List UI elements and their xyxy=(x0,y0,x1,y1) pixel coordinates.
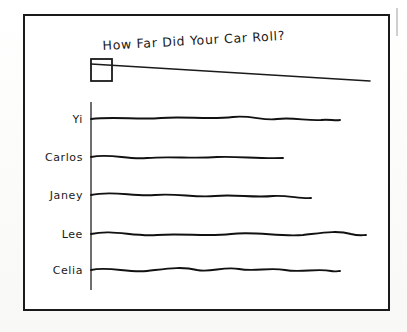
bar-carlos xyxy=(91,156,283,159)
category-label-yi: Yi xyxy=(25,113,83,126)
category-label-carlos: Carlos xyxy=(25,151,83,164)
bar-janey xyxy=(91,193,311,198)
category-label-lee: Lee xyxy=(25,228,83,241)
scan-edge-artifact xyxy=(396,8,398,36)
block-square xyxy=(91,59,112,81)
bar-yi xyxy=(91,117,340,121)
worksheet-page: How Far Did Your Car Roll? Yi Carlos Jan… xyxy=(0,0,407,332)
chart-frame: How Far Did Your Car Roll? Yi Carlos Jan… xyxy=(23,14,390,311)
bar-celia xyxy=(91,268,340,271)
ramp-line xyxy=(91,64,370,81)
category-label-celia: Celia xyxy=(25,264,83,277)
bar-lee xyxy=(91,232,366,235)
category-label-janey: Janey xyxy=(25,189,83,202)
